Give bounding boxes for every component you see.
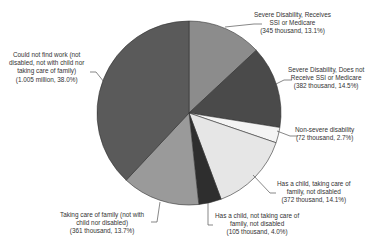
slice-label-child-caring: Has a child, taking care of family, not …: [277, 180, 351, 205]
slice-label-severe-ssi: Severe Disability, Receives SSI or Medic…: [254, 11, 331, 36]
label-line: (382 thousand, 14.5%): [288, 82, 364, 90]
label-line: (372 thousand, 14.1%): [277, 196, 351, 204]
label-line: disabled, not with child nor: [9, 59, 84, 67]
label-line: child nor disabled): [60, 219, 144, 227]
label-line: Taking care of family (not with: [60, 211, 144, 219]
label-line: Severe Disability, Receives: [254, 11, 331, 19]
label-line: Severe Disability, Does not: [288, 66, 364, 74]
leader-line-s3: [253, 175, 276, 193]
slice-label-severe-no-ssi: Severe Disability, Does not Receive SSI …: [288, 66, 364, 91]
leader-line-s5: [151, 202, 160, 222]
leader-line-s6: [90, 72, 104, 82]
label-line: family, not disabled: [277, 188, 351, 196]
label-line: Has a child, not taking care of: [215, 212, 299, 220]
slice-label-non-severe: Non-severe disability (72 thousand, 2.7%…: [295, 126, 354, 142]
pie-chart: [0, 0, 374, 245]
label-line: Could not find work (not: [9, 51, 84, 59]
label-line: (345 thousand, 13.1%): [254, 27, 331, 35]
label-line: (72 thousand, 2.7%): [295, 134, 354, 142]
slice-label-taking-care-family: Taking care of family (not with child no…: [60, 211, 144, 236]
leader-line-s4: [208, 203, 213, 225]
label-line: taking care of family): [9, 67, 84, 75]
label-line: Non-severe disability: [295, 126, 354, 134]
label-line: (1.005 million, 38.0%): [9, 76, 84, 84]
label-line: (361 thousand, 13.7%): [60, 227, 144, 235]
label-line: Receive SSI or Medicare: [288, 74, 364, 82]
label-line: (105 thousand, 4.0%): [215, 228, 299, 236]
slice-label-could-not-find-work: Could not find work (not disabled, not w…: [9, 51, 84, 84]
label-line: family, not disabled: [215, 220, 299, 228]
label-line: Has a child, taking care of: [277, 180, 351, 188]
label-line: SSI or Medicare: [254, 19, 331, 27]
slice-label-child-not-caring: Has a child, not taking care of family, …: [215, 212, 299, 237]
pie-slices: [97, 21, 281, 205]
